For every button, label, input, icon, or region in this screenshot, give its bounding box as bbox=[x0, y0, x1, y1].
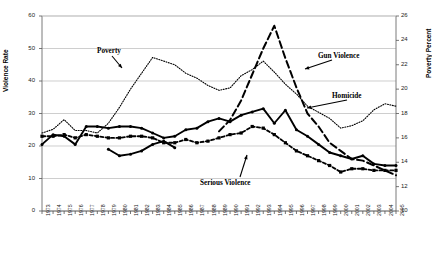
y-tick-left-30: 30 bbox=[17, 110, 35, 116]
y-axis-left-title: Violence Rate bbox=[2, 49, 9, 92]
x-tick-1985: 1985 bbox=[177, 204, 183, 216]
annotation-leader-lines bbox=[112, 56, 347, 177]
y-tick-left-50: 50 bbox=[17, 45, 35, 51]
x-tick-1973: 1973 bbox=[45, 204, 51, 216]
y-tick-right-22: 22 bbox=[401, 61, 419, 67]
series-label-gun-violence: Gun Violence bbox=[318, 52, 359, 60]
y-tick-left-10: 10 bbox=[17, 175, 35, 181]
x-tick-1993: 1993 bbox=[266, 204, 272, 216]
y-tick-right-24: 24 bbox=[401, 36, 419, 42]
x-tick-1980: 1980 bbox=[122, 204, 128, 216]
x-tick-2003: 2003 bbox=[376, 204, 382, 216]
y-tick-right-16: 16 bbox=[401, 134, 419, 140]
y-tick-left-20: 20 bbox=[17, 142, 35, 148]
series-label-homicide: Homicide bbox=[332, 92, 362, 100]
x-tick-1982: 1982 bbox=[144, 204, 150, 216]
x-tick-1987: 1987 bbox=[199, 204, 205, 216]
x-tick-1999: 1999 bbox=[332, 204, 338, 216]
x-tick-2005: 2005 bbox=[399, 204, 405, 216]
y-tick-right-18: 18 bbox=[401, 110, 419, 116]
x-tick-1995: 1995 bbox=[288, 204, 294, 216]
x-tick-1994: 1994 bbox=[277, 204, 283, 216]
x-tick-1998: 1998 bbox=[321, 204, 327, 216]
x-tick-1991: 1991 bbox=[244, 204, 250, 216]
series-label-poverty: Poverty bbox=[97, 47, 121, 55]
x-tick-1977: 1977 bbox=[89, 204, 95, 216]
y-tick-left-0: 0 bbox=[17, 207, 35, 213]
x-tick-2001: 2001 bbox=[354, 204, 360, 216]
x-tick-2000: 2000 bbox=[343, 204, 349, 216]
x-tick-1975: 1975 bbox=[67, 204, 73, 216]
y-tick-left-40: 40 bbox=[17, 77, 35, 83]
x-tick-1984: 1984 bbox=[166, 204, 172, 216]
x-tick-1997: 1997 bbox=[310, 204, 316, 216]
x-tick-1989: 1989 bbox=[222, 204, 228, 216]
x-tick-1990: 1990 bbox=[233, 204, 239, 216]
series-label-serious-violence: Serious Violence bbox=[200, 179, 251, 187]
x-tick-1981: 1981 bbox=[133, 204, 139, 216]
x-tick-2004: 2004 bbox=[388, 204, 394, 216]
x-tick-1979: 1979 bbox=[111, 204, 117, 216]
x-tick-1996: 1996 bbox=[299, 204, 305, 216]
y-tick-left-60: 60 bbox=[17, 12, 35, 18]
y-tick-right-26: 26 bbox=[401, 12, 419, 18]
x-tick-1974: 1974 bbox=[56, 204, 62, 216]
x-tick-1988: 1988 bbox=[211, 204, 217, 216]
x-tick-2002: 2002 bbox=[365, 204, 371, 216]
y-tick-right-14: 14 bbox=[401, 158, 419, 164]
x-tick-1976: 1976 bbox=[78, 204, 84, 216]
y-tick-right-12: 12 bbox=[401, 183, 419, 189]
y-axis-right-title: Poverty Percent bbox=[425, 29, 432, 79]
x-tick-1992: 1992 bbox=[255, 204, 261, 216]
x-tick-1978: 1978 bbox=[100, 204, 106, 216]
x-tick-1983: 1983 bbox=[155, 204, 161, 216]
y-tick-right-20: 20 bbox=[401, 85, 419, 91]
x-tick-1986: 1986 bbox=[188, 204, 194, 216]
